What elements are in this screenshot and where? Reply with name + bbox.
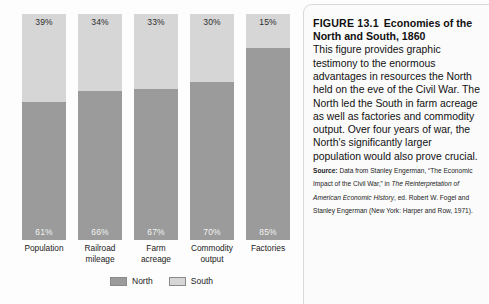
category-label-line1: Farm	[146, 243, 165, 253]
figure-number: FIGURE 13.1	[313, 17, 379, 29]
bar-value-south: 30%	[203, 18, 220, 27]
chart-legend: North South	[110, 276, 213, 286]
legend-label-south: South	[191, 276, 213, 286]
bar-value-south: 15%	[259, 18, 276, 27]
stacked-bar-chart: 39% 61% 34% 66% 33% 67%	[0, 0, 300, 304]
source-prefix: Source:	[313, 167, 338, 174]
bar-segment-north: 67%	[134, 89, 178, 240]
legend-item-north: North	[110, 276, 153, 286]
caption-body: This figure provides graphic testimony t…	[313, 43, 482, 216]
bar-segment-north: 61%	[22, 102, 66, 240]
legend-swatch-north-icon	[110, 277, 127, 286]
figure-container: 39% 61% 34% 66% 33% 67%	[0, 0, 489, 304]
bar-value-north: 66%	[91, 228, 108, 237]
bar-railroad-mileage: 34% 66%	[78, 14, 122, 240]
bar-commodity-output: 30% 70%	[190, 14, 234, 240]
caption-title: FIGURE 13.1Economies of the North and So…	[313, 17, 482, 43]
legend-swatch-south-icon	[169, 277, 186, 286]
bar-farm-acreage: 33% 67%	[134, 14, 178, 240]
bar-segment-south: 34%	[78, 14, 122, 91]
legend-label-north: North	[132, 276, 153, 286]
category-label-commodity-output: Commodityoutput	[190, 243, 234, 264]
category-label-railroad-mileage: Railroadmileage	[78, 243, 122, 264]
category-label-line2: acreage	[141, 254, 171, 264]
category-label-line2: output	[200, 254, 223, 264]
bar-segment-south: 30%	[190, 14, 234, 82]
bar-value-south: 39%	[35, 18, 52, 27]
bar-value-north: 61%	[35, 228, 52, 237]
bar-population: 39% 61%	[22, 14, 66, 240]
legend-item-south: South	[169, 276, 213, 286]
bar-segment-north: 85%	[246, 48, 290, 240]
bar-value-south: 34%	[91, 18, 108, 27]
category-label-line1: Population	[24, 243, 63, 253]
bar-segment-south: 33%	[134, 14, 178, 89]
category-label-line1: Factories	[251, 243, 285, 253]
bar-value-north: 85%	[259, 228, 276, 237]
bar-factories: 15% 85%	[246, 14, 290, 240]
category-label-factories: Factories	[246, 243, 290, 264]
category-label-farm-acreage: Farmacreage	[134, 243, 178, 264]
category-label-line2: mileage	[85, 254, 114, 264]
bar-segment-south: 15%	[246, 14, 290, 48]
category-label-population: Population	[22, 243, 66, 264]
bar-group-row: 39% 61% 34% 66% 33% 67%	[22, 14, 290, 240]
category-label-line1: Railroad	[85, 243, 116, 253]
bar-segment-north: 70%	[190, 82, 234, 240]
bar-segment-north: 66%	[78, 91, 122, 240]
category-label-row: Population Railroadmileage Farmacreage C…	[22, 243, 290, 264]
caption-panel: FIGURE 13.1Economies of the North and So…	[303, 4, 489, 304]
caption-body-text: This figure provides graphic testimony t…	[313, 44, 480, 161]
bar-value-north: 70%	[203, 228, 220, 237]
category-label-line1: Commodity	[191, 243, 233, 253]
bar-value-south: 33%	[147, 18, 164, 27]
bar-value-north: 67%	[147, 228, 164, 237]
bar-segment-south: 39%	[22, 14, 66, 102]
caption-source: Source: Data from Stanley Engerman, “The…	[313, 167, 473, 214]
